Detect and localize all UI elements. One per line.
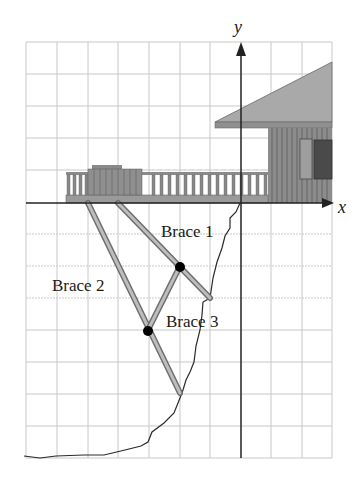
house-door	[300, 139, 312, 179]
joint-brace1-brace3	[175, 262, 185, 272]
house-roof	[215, 62, 332, 128]
joint-brace2-brace3	[143, 326, 153, 336]
y-axis-arrow-icon	[236, 42, 246, 56]
brace-1-label: Brace 1	[161, 222, 213, 241]
brace-3-label: Brace 3	[166, 312, 218, 331]
house-window	[314, 140, 332, 179]
cliff-house-diagram: x y Brace 1 Brace 2 Brace 3	[0, 0, 359, 488]
deck-bench	[88, 165, 142, 195]
deck	[66, 165, 268, 203]
y-axis-label: y	[232, 17, 242, 37]
brace-2-label: Brace 2	[52, 276, 104, 295]
x-axis-label: x	[337, 197, 346, 217]
house-wall	[268, 128, 332, 203]
